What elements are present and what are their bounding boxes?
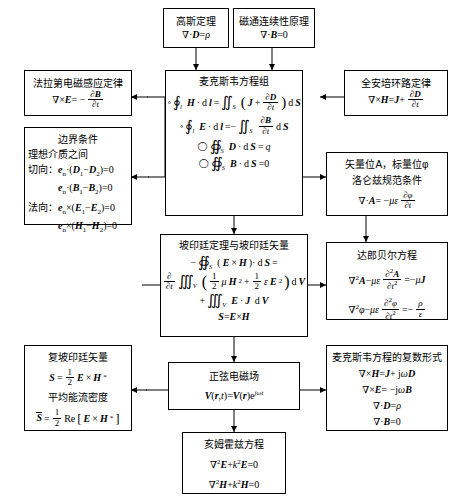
boundary-line-3: 法向：en×(E1−E2)=0	[28, 201, 115, 219]
poynting-equation-1: −∯S(E×H)·dS=	[190, 256, 277, 269]
box-dalembert-equations[interactable]: 达郎贝尔方程 ∇2A−με ∂2A∂t2 =−μJ ∇2φ−με ∂2φ∂t2 …	[326, 242, 448, 320]
maxwell-complex-equation-3: ∇·D=ρ	[373, 399, 401, 412]
box-ampere-law[interactable]: 全安培环路定律 ∇×H=J+ ∂D∂t	[344, 70, 448, 116]
box-helmholtz-equations[interactable]: 亥姆霍兹方程 ∇2E+k2E=0 ∇2H+k2H=0	[182, 432, 286, 494]
poynting-title: 坡印廷定理与坡印廷矢量	[179, 239, 289, 252]
boundary-title: 边界条件	[58, 133, 98, 146]
box-sinusoidal-field[interactable]: 正弦电磁场 V(r,t)=V(r)ejωt	[168, 362, 300, 410]
helmholtz-equation-2: ∇2H+k2H=0	[209, 476, 259, 491]
sinusoidal-equation: V(r,t)=V(r)ejωt	[205, 387, 264, 402]
helmholtz-equation-1: ∇2E+k2E=0	[210, 456, 258, 471]
helmholtz-title: 亥姆霍兹方程	[204, 438, 264, 451]
gauss-equation: ∇·D=ρ	[182, 28, 210, 41]
maxwell-complex-equation-2: ∇×E= −jωB	[362, 383, 412, 396]
box-gauss-theorem[interactable]: 高斯定理 ∇·D=ρ	[163, 8, 229, 48]
diagram-canvas: 高斯定理 ∇·D=ρ 磁通连续性原理 ∇·B=0 法拉第电磁感应定律 ∇×E= …	[0, 0, 468, 502]
dalembert-title: 达郎贝尔方程	[357, 249, 417, 262]
maxwell-equation-3: ◯∯SD·dS=q	[197, 140, 270, 153]
box-poynting-theorem[interactable]: 坡印廷定理与坡印廷矢量 −∯S(E×H)·dS= ∂∂t ∭V ( 12μH2+…	[160, 234, 308, 337]
dalembert-equation-1: ∇2A−με ∂2A∂t2 =−μJ	[348, 268, 425, 291]
complex-poynting-equation-2: S= 12 Re[E×H*]	[36, 408, 119, 427]
maxwell-complex-title: 麦克斯韦方程的复数形式	[332, 351, 442, 364]
box-faraday-law[interactable]: 法拉第电磁感应定律 ∇×E= − ∂B∂t	[24, 70, 132, 116]
box-maxwell-complex-form[interactable]: 麦克斯韦方程的复数形式 ∇×H=J+ jωD ∇×E= −jωB ∇·D=ρ ∇…	[326, 345, 448, 431]
dalembert-equation-2: ∇2φ−με ∂2φ∂t2 =− ρε	[348, 297, 425, 320]
complex-poynting-equation-1: S= 12 E×H*	[49, 368, 106, 387]
faraday-equation: ∇×E= − ∂B∂t	[52, 90, 104, 109]
potentials-subtitle: 洛仑兹规范条件	[352, 174, 422, 187]
boundary-subtitle: 理想介质之间	[28, 148, 88, 161]
gauss-title: 高斯定理	[176, 15, 216, 28]
maxwell-equation-4: ◯∯SB·dS=0	[199, 157, 270, 170]
faraday-title: 法拉第电磁感应定律	[33, 77, 123, 90]
poynting-equation-2: ∂∂t ∭V ( 12μH2+ 12εE2 )dV	[163, 272, 305, 291]
ampere-equation: ∇×H=J+ ∂D∂t	[368, 90, 424, 109]
potentials-title: 矢量位A，标量位φ	[345, 158, 428, 171]
box-boundary-conditions[interactable]: 边界条件 理想介质之间 切向：en·(D1−D2)=0 en·(B1−B2)=0…	[24, 127, 132, 225]
maxwell-complex-equation-1: ∇×H=J+ jωD	[359, 367, 415, 380]
poynting-equation-3: +∭VE·J dV	[200, 294, 269, 307]
box-flux-continuity[interactable]: 磁通连续性原理 ∇·B=0	[233, 8, 315, 48]
maxwell-complex-equation-4: ∇·B=0	[373, 415, 401, 428]
potentials-equation: ∇·A= −με ∂φ∂t	[358, 191, 415, 210]
boundary-line-1: 切向：en·(D1−D2)=0	[28, 163, 114, 181]
maxwell-title: 麦克斯韦方程组	[199, 75, 269, 88]
complex-poynting-subtitle: 平均能流密度	[48, 391, 108, 404]
maxwell-equation-1: ∘∮lH·dl=∬S ( J+∂D∂t )dS	[167, 93, 301, 112]
complex-poynting-title: 复坡印廷矢量	[48, 351, 108, 364]
boundary-line-4: en×(H1−H2)=0	[58, 219, 117, 237]
box-complex-poynting[interactable]: 复坡印廷矢量 S= 12 E×H* 平均能流密度 S= 12 Re[E×H*]	[24, 345, 132, 431]
poynting-equation-4: S=E×H	[218, 310, 249, 323]
flux-equation: ∇·B=0	[260, 28, 288, 41]
sinusoidal-title: 正弦电磁场	[209, 370, 259, 383]
flux-title: 磁通连续性原理	[239, 15, 309, 28]
box-maxwell-equations[interactable]: 麦克斯韦方程组 ∘∮lH·dl=∬S ( J+∂D∂t )dS ∘∮lE·dl=…	[165, 70, 303, 216]
boundary-line-2: en·(B1−B2)=0	[58, 181, 113, 199]
maxwell-equation-2: ∘∮lE·dl=−∬S ∂B∂tdS	[179, 116, 288, 135]
box-potentials[interactable]: 矢量位A，标量位φ 洛仑兹规范条件 ∇·A= −με ∂φ∂t	[326, 152, 448, 216]
